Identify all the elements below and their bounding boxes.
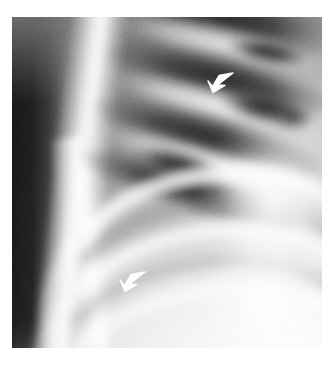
chest-radiograph-image: [12, 17, 322, 348]
lower-arrow-marker-icon[interactable]: [114, 268, 150, 300]
lung-density-notch-right: [270, 103, 316, 133]
upper-arrow-marker-icon[interactable]: [202, 69, 238, 101]
figure-root: [0, 0, 335, 370]
